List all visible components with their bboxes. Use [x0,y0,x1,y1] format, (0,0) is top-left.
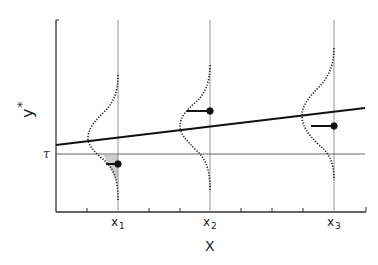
point-x1 [115,161,121,167]
point-x2 [207,108,213,114]
threshold-label: τ [43,147,50,161]
x-axis-label: X [205,238,215,254]
censored-shading [104,156,118,182]
svg-text:x: x [327,215,334,229]
svg-text:*: * [14,101,29,108]
svg-text:3: 3 [335,221,341,231]
x-tick-label-2: x 2 [203,215,217,231]
axes [56,20,366,212]
y-axis-label: y * [14,101,37,118]
svg-text:x: x [203,215,210,229]
observed-points [106,108,337,167]
svg-text:x: x [111,215,118,229]
x-tick-label-1: x 1 [111,215,125,231]
svg-text:y: y [18,109,37,118]
density-curves [88,48,334,200]
x-tick-label-3: x 3 [327,215,341,231]
svg-text:2: 2 [211,221,217,231]
point-x3 [331,123,337,129]
tobit-diagram: τ y * x 1 x 2 x 3 X [0,0,378,265]
svg-text:1: 1 [119,221,125,231]
